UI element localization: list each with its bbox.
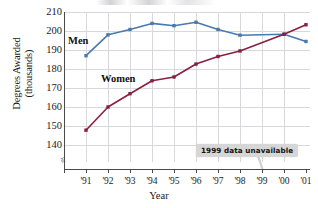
- x-axis-line: [64, 169, 310, 170]
- annotation-callout: 1999 data unavailable: [196, 144, 298, 157]
- plot-area: [64, 12, 310, 162]
- gridline-vertical: [108, 12, 109, 162]
- gridline-vertical: [130, 12, 131, 162]
- x-tick-mark: [174, 169, 175, 173]
- y-tick-label: 150: [38, 121, 62, 132]
- x-tick-mark: [218, 169, 219, 173]
- gridline-vertical: [218, 12, 219, 162]
- y-axis-tick-labels: 210 200 190 180 170 160 150 140: [36, 0, 62, 170]
- y-axis-title-container: Degrees Awarded (thousands): [0, 0, 34, 170]
- x-tick-mark: [196, 169, 197, 173]
- x-tick-mark: [108, 169, 109, 173]
- y-tick-label: 180: [38, 64, 62, 75]
- gridline-horizontal: [64, 31, 310, 32]
- gridline-vertical: [262, 12, 263, 162]
- x-tick-mark: [64, 169, 65, 173]
- gridline-vertical: [240, 12, 241, 162]
- x-tick-mark: [152, 169, 153, 173]
- scan-artifact: [96, 0, 216, 5]
- gridline-vertical: [152, 12, 153, 162]
- gridline-horizontal: [64, 12, 310, 13]
- y-axis-line: [64, 12, 65, 169]
- y-axis-title: Degrees Awarded (thousands): [11, 0, 34, 150]
- gridline-horizontal: [64, 88, 310, 89]
- x-tick-mark: [284, 169, 285, 173]
- line-chart: Degrees Awarded (thousands) 210 200 190 …: [0, 0, 318, 208]
- gridline-horizontal: [64, 126, 310, 127]
- series-label-men: Men: [68, 35, 88, 46]
- gridline-vertical: [196, 12, 197, 162]
- y-tick-label: 190: [38, 45, 62, 56]
- y-tick-label: 160: [38, 102, 62, 113]
- x-tick-mark: [306, 169, 307, 173]
- gridline-horizontal: [64, 107, 310, 108]
- y-tick-label: 210: [38, 7, 62, 18]
- series-label-women: Women: [101, 73, 135, 84]
- gridline-vertical: [174, 12, 175, 162]
- gridline-horizontal: [64, 69, 310, 70]
- y-tick-label: 200: [38, 26, 62, 37]
- y-tick-label: 170: [38, 83, 62, 94]
- x-tick-mark: [86, 169, 87, 173]
- x-tick-label: '01: [293, 176, 318, 186]
- x-axis-title: Year: [0, 190, 318, 201]
- x-tick-mark: [130, 169, 131, 173]
- x-tick-mark: [262, 169, 263, 173]
- gridline-horizontal: [64, 50, 310, 51]
- y-tick-label: 140: [38, 140, 62, 151]
- x-tick-mark: [240, 169, 241, 173]
- gridline-vertical: [284, 12, 285, 162]
